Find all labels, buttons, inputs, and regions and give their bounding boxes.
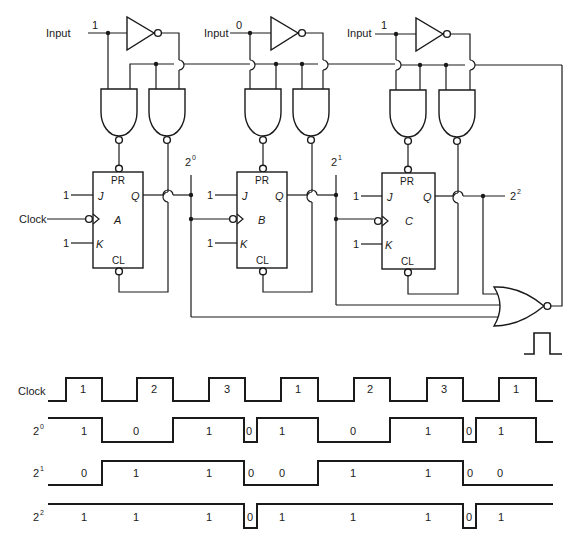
q1-waveform xyxy=(48,461,553,485)
output-a-exponent: 0 xyxy=(192,154,196,161)
q1-state: 0 xyxy=(497,467,503,479)
timing-2-0-exponent: 0 xyxy=(40,423,44,430)
q0-state: 1 xyxy=(81,425,87,437)
output-c-exponent: 2 xyxy=(517,188,521,195)
q1-state: 1 xyxy=(350,467,356,479)
ff-name-c: C xyxy=(405,215,413,227)
clock-pulse-label: 2 xyxy=(367,383,373,395)
inverter-c-icon xyxy=(416,18,443,51)
q0-waveform xyxy=(48,418,553,442)
q1-state: 0 xyxy=(467,467,473,479)
nand-preset-b-icon xyxy=(245,89,281,136)
q0-state: 0 xyxy=(466,425,472,437)
timing-2-1-label: 2 xyxy=(33,467,39,479)
output-b-label: 2 xyxy=(331,156,337,168)
pulse-icon xyxy=(524,333,562,354)
q0-state: 0 xyxy=(133,425,139,437)
clock-input-label: Clock xyxy=(19,213,47,225)
input-a-value: 1 xyxy=(92,19,98,31)
j-value-b: 1 xyxy=(207,189,213,201)
j-value-c: 1 xyxy=(353,190,359,202)
timing-2-2-exponent: 2 xyxy=(40,509,44,516)
stage-a: Input 1 PR J Q A K CL 1 1 xyxy=(19,17,250,317)
q2-state: 0 xyxy=(247,511,253,523)
k-value-c: 1 xyxy=(353,238,359,250)
nor-gate-icon xyxy=(494,287,544,326)
input-c-label: Input xyxy=(347,27,371,39)
pr-label-a: PR xyxy=(111,175,125,186)
q-label-b: Q xyxy=(275,190,284,202)
q0-state: 1 xyxy=(498,425,504,437)
j-label-c: J xyxy=(386,191,393,203)
q1-state: 0 xyxy=(81,467,87,479)
timing-diagram: Clock 1 2 3 1 2 3 1 2 0 1 0 1 0 1 0 1 0 … xyxy=(18,378,553,528)
k-label-b: K xyxy=(240,238,248,250)
timing-2-1-exponent: 1 xyxy=(40,465,44,472)
timing-2-2-label: 2 xyxy=(33,511,39,523)
q-label-a: Q xyxy=(131,190,140,202)
q2-waveform xyxy=(48,504,553,528)
clock-pulse-label: 1 xyxy=(513,383,519,395)
q1-state: 0 xyxy=(248,467,254,479)
q-label-c: Q xyxy=(423,191,432,203)
nand-preset-c-icon xyxy=(390,90,426,137)
k-label-a: K xyxy=(96,238,104,250)
q2-state: 1 xyxy=(81,511,87,523)
q2-state: 1 xyxy=(206,511,212,523)
inverter-b-icon xyxy=(271,17,298,50)
cl-label-b: CL xyxy=(256,255,269,266)
k-value-a: 1 xyxy=(63,237,69,249)
q2-state: 1 xyxy=(133,511,139,523)
q1-state: 1 xyxy=(425,467,431,479)
clock-pulse-label: 2 xyxy=(151,383,157,395)
output-b-exponent: 1 xyxy=(338,154,342,161)
q0-state: 0 xyxy=(246,425,252,437)
nand-clear-b-icon xyxy=(293,89,329,136)
cl-label-a: CL xyxy=(112,255,125,266)
q2-state: 1 xyxy=(498,511,504,523)
j-label-a: J xyxy=(97,190,104,202)
ff-name-a: A xyxy=(113,214,121,226)
output-c-label: 2 xyxy=(510,190,516,202)
q1-state: 0 xyxy=(279,467,285,479)
timing-clock-label: Clock xyxy=(18,385,46,397)
nand-preset-a-icon xyxy=(101,89,137,136)
pr-label-b: PR xyxy=(255,175,269,186)
clock-pulse-label: 1 xyxy=(295,383,301,395)
input-a-label: Input xyxy=(46,27,70,39)
q2-state: 1 xyxy=(279,511,285,523)
q0-state: 0 xyxy=(350,425,356,437)
q1-state: 1 xyxy=(206,467,212,479)
q0-state: 1 xyxy=(279,425,285,437)
clock-pulse-label: 1 xyxy=(80,383,86,395)
j-label-b: J xyxy=(241,190,248,202)
stage-b: Input 0 PR J Q B K CL 1 1 xyxy=(204,17,395,305)
q0-state: 1 xyxy=(206,425,212,437)
q2-state: 0 xyxy=(466,511,472,523)
q0-state: 1 xyxy=(425,425,431,437)
timing-2-0-label: 2 xyxy=(33,425,39,437)
counter-diagram: Input 1 PR J Q A K CL 1 1 xyxy=(0,0,577,544)
q2-state: 1 xyxy=(350,511,356,523)
clock-pulse-label: 3 xyxy=(224,383,230,395)
ff-name-b: B xyxy=(258,214,265,226)
inverter-a-icon xyxy=(127,17,154,50)
clock-pulse-label: 3 xyxy=(441,383,447,395)
nand-clear-c-icon xyxy=(439,90,475,137)
pr-label-c: PR xyxy=(400,176,414,187)
k-value-b: 1 xyxy=(207,237,213,249)
output-a-label: 2 xyxy=(185,156,191,168)
input-b-label: Input xyxy=(204,27,228,39)
cl-label-c: CL xyxy=(401,256,414,267)
k-label-c: K xyxy=(385,239,393,251)
q1-state: 1 xyxy=(133,467,139,479)
stage-c: Input 1 PR J Q C K CL 1 1 xyxy=(347,18,562,294)
input-b-value: 0 xyxy=(236,19,242,31)
q2-state: 1 xyxy=(425,511,431,523)
nand-clear-a-icon xyxy=(149,89,185,136)
input-c-value: 1 xyxy=(381,19,387,31)
j-value-a: 1 xyxy=(63,189,69,201)
